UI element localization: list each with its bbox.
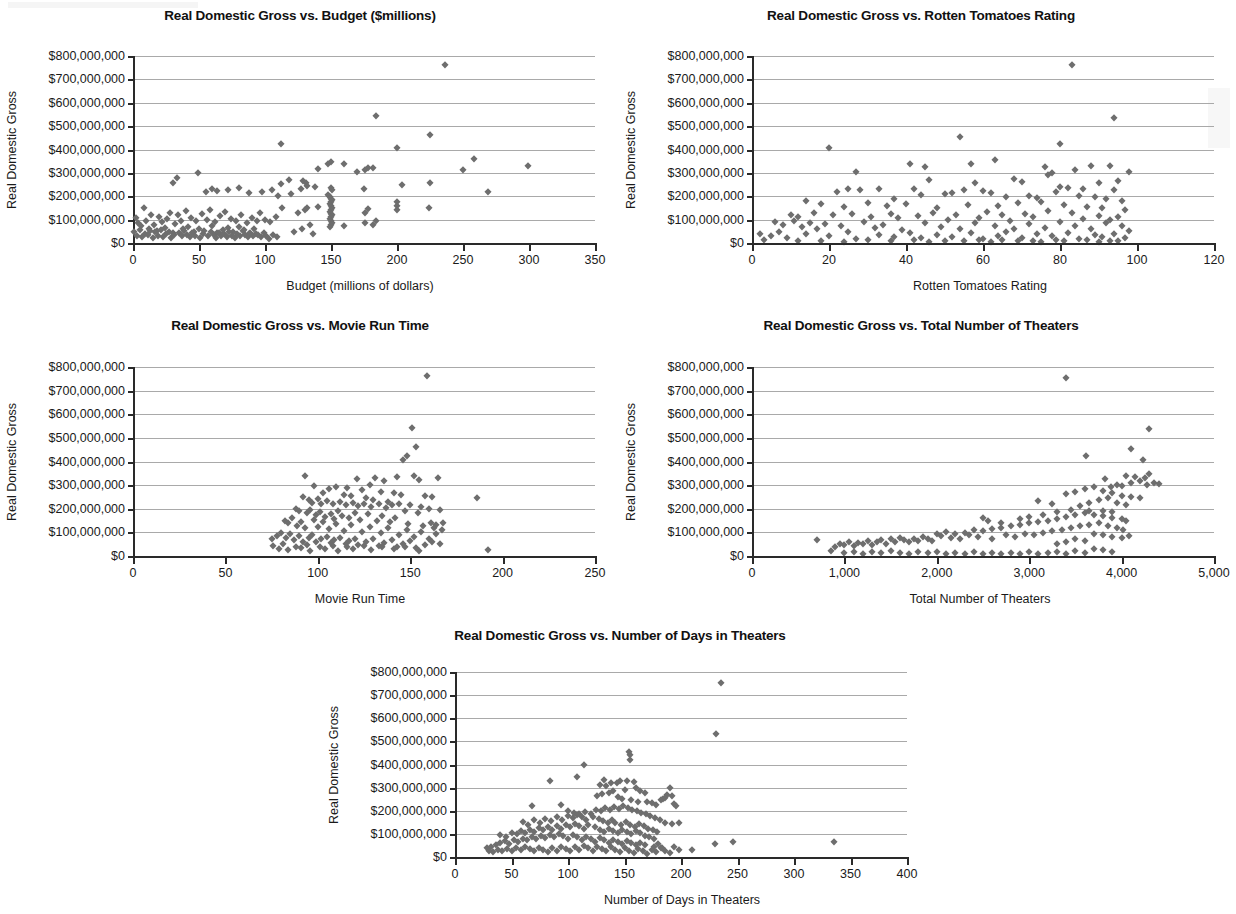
data-point [1081,510,1088,517]
x-axis-line [133,556,597,558]
gridline [455,765,907,766]
gridline [752,196,1214,197]
data-point [933,548,940,555]
gridline [752,173,1214,174]
data-point [802,230,809,237]
data-point [814,225,821,232]
data-point [1072,222,1079,229]
x-tick-label: 0 [130,566,137,580]
data-point [390,490,397,497]
data-point [949,234,956,241]
x-tick-mark [738,859,740,865]
gridline [133,485,595,486]
data-point [429,539,436,546]
data-point [1095,212,1102,219]
data-point [991,222,998,229]
y-tick-label: $100,000,000 [626,525,744,539]
data-point [634,798,641,805]
data-point [342,502,349,509]
gridline [455,695,907,696]
y-tick-label: $0 [626,549,744,563]
data-point [1076,235,1083,242]
x-tick-mark [397,245,399,251]
data-point [914,212,921,219]
x-tick-mark [595,245,597,251]
x-axis-line [752,556,1216,558]
data-point [1101,476,1108,483]
gridline [133,414,595,415]
gridline [455,672,907,673]
data-point [1099,205,1106,212]
data-point [298,225,305,232]
data-point [675,846,682,853]
data-point [379,512,386,519]
data-point [845,185,852,192]
x-tick-label: 200 [492,566,513,580]
data-point [989,535,996,542]
x-tick-label: 2,000 [921,566,952,580]
gridline [133,391,595,392]
data-point [370,536,377,543]
data-point [421,492,428,499]
data-point [1099,513,1106,520]
data-point [346,515,353,522]
y-axis-line [455,672,457,859]
data-point [473,494,480,501]
data-point [384,524,391,531]
data-point [1037,198,1044,205]
y-tick-label: $300,000,000 [626,166,744,180]
x-tick-label: 60 [976,253,990,267]
x-tick-mark [512,859,514,865]
y-tick-label: $300,000,000 [7,166,125,180]
data-point [1062,375,1069,382]
gridline [455,718,907,719]
data-point [628,797,635,804]
data-point [140,205,147,212]
chart-runtime: Real Domestic Gross vs. Movie Run TimeRe… [0,318,600,333]
data-point [1068,62,1075,69]
data-point [426,132,433,139]
y-tick-label: $600,000,000 [329,711,447,725]
y-tick-label: $0 [329,850,447,864]
y-tick-label: $800,000,000 [7,360,125,374]
x-tick-mark [410,558,412,564]
x-tick-label: 100 [255,253,276,267]
data-point [397,491,404,498]
data-point [408,424,415,431]
data-point [1039,511,1046,518]
data-point [1002,194,1009,201]
data-point [1099,547,1106,554]
data-point [1044,517,1051,524]
y-tick-label: $500,000,000 [626,431,744,445]
data-point [864,199,871,206]
x-tick-label: 4,000 [1106,566,1137,580]
data-point [1041,163,1048,170]
y-tick-label: $100,000,000 [7,213,125,227]
data-point [868,549,875,556]
y-tick-label: $300,000,000 [626,478,744,492]
data-point [1091,231,1098,238]
data-point [1095,179,1102,186]
data-point [991,157,998,164]
data-point [347,522,354,529]
data-point [1123,502,1130,509]
data-point [1026,193,1033,200]
data-point [253,218,260,225]
y-tick-label: $400,000,000 [7,143,125,157]
data-point [1083,203,1090,210]
data-point [898,226,905,233]
x-tick-mark [1137,245,1139,251]
data-point [1123,517,1130,524]
x-tick-mark [937,558,939,564]
data-point [1127,445,1134,452]
data-point [995,202,1002,209]
chart-title: Real Domestic Gross vs. Budget ($million… [0,8,600,23]
data-point [206,207,213,214]
y-axis-line [752,56,754,245]
y-tick-label: $200,000,000 [7,502,125,516]
data-point [381,477,388,484]
gridline [752,509,1214,510]
data-point [668,820,675,827]
data-point [441,62,448,69]
x-tick-label: 0 [452,867,459,881]
